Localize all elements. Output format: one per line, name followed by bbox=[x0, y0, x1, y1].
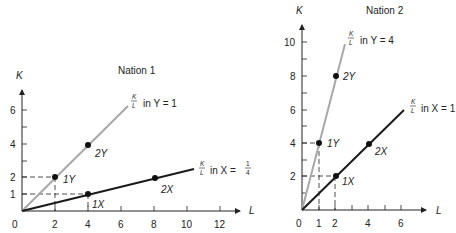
n2-ytick-4: 4 bbox=[290, 138, 296, 149]
nation-1-x-ticks bbox=[55, 206, 220, 211]
svg-text:K: K bbox=[349, 30, 354, 37]
nation-2-ray-x bbox=[302, 110, 404, 210]
n1-ray-y-label: K L in Y = 1 bbox=[131, 93, 177, 109]
n1-xtick-0: 0 bbox=[12, 219, 18, 230]
n1-label-1x: 1X bbox=[92, 199, 105, 210]
svg-text:K: K bbox=[200, 160, 205, 167]
svg-text:L: L bbox=[349, 39, 353, 46]
n2-ytick-10: 10 bbox=[284, 37, 296, 48]
n2-point-2y bbox=[333, 73, 339, 79]
n2-label-1y: 1Y bbox=[327, 138, 341, 149]
n2-point-2x bbox=[366, 141, 372, 147]
svg-text:1: 1 bbox=[246, 160, 250, 167]
n2-xtick-1: 1 bbox=[316, 218, 322, 229]
svg-text:L: L bbox=[132, 102, 136, 109]
n1-xtick-12: 12 bbox=[214, 219, 226, 230]
n2-ytick-6: 6 bbox=[290, 105, 296, 116]
svg-text:in X = 1: in X = 1 bbox=[421, 103, 456, 114]
n2-xtick-6: 6 bbox=[398, 218, 404, 229]
svg-text:4: 4 bbox=[246, 169, 250, 176]
n1-point-2x bbox=[152, 175, 158, 181]
n2-ray-y-label: K L in Y = 4 bbox=[348, 30, 394, 46]
svg-text:in X =: in X = bbox=[210, 165, 236, 176]
nation-1-y-axis-label: K bbox=[16, 70, 24, 81]
svg-text:L: L bbox=[411, 107, 415, 114]
n1-xtick-10: 10 bbox=[181, 219, 193, 230]
nation-1-title: Nation 1 bbox=[118, 65, 156, 76]
n1-ytick-2: 2 bbox=[10, 172, 16, 183]
n1-ytick-6: 6 bbox=[10, 105, 16, 116]
n1-label-2y: 2Y bbox=[94, 148, 109, 159]
n2-ytick-8: 8 bbox=[290, 71, 296, 82]
n1-xtick-8: 8 bbox=[151, 219, 157, 230]
n2-xtick-4: 4 bbox=[365, 218, 371, 229]
n2-point-1y bbox=[316, 140, 322, 146]
nation-2-dashed-guides bbox=[302, 143, 335, 210]
n1-point-1y bbox=[52, 174, 58, 180]
n1-point-2y bbox=[85, 142, 91, 148]
n2-label-2y: 2Y bbox=[342, 71, 357, 82]
nation-1-panel: Nation 1 K L 0 2 4 6 8 10 1 bbox=[10, 65, 255, 230]
n2-label-1x: 1X bbox=[342, 176, 355, 187]
n1-xtick-4: 4 bbox=[85, 219, 91, 230]
n2-ytick-2: 2 bbox=[290, 171, 296, 182]
n2-label-2x: 2X bbox=[374, 146, 388, 157]
nation-2-y-axis-label: K bbox=[296, 5, 304, 16]
n1-xtick-2: 2 bbox=[52, 219, 58, 230]
nation-2-ray-y bbox=[302, 44, 345, 210]
n2-xtick-0: 0 bbox=[296, 218, 302, 229]
nation-2-title: Nation 2 bbox=[366, 5, 404, 16]
nation-1-y-ticks bbox=[22, 110, 27, 194]
nation-1-ray-y bbox=[22, 106, 128, 211]
n1-label-2x: 2X bbox=[160, 184, 174, 195]
svg-text:L: L bbox=[200, 169, 204, 176]
n2-ray-x-label: K L in X = 1 bbox=[410, 98, 456, 114]
svg-text:in Y = 1: in Y = 1 bbox=[143, 98, 177, 109]
nation-2-y-ticks bbox=[302, 42, 307, 193]
nation-2-x-ticks bbox=[319, 205, 401, 210]
nation-1-x-axis-label: L bbox=[249, 205, 255, 216]
n2-point-1x bbox=[333, 173, 339, 179]
n1-xtick-6: 6 bbox=[118, 219, 124, 230]
svg-text:K: K bbox=[411, 98, 416, 105]
n1-label-1y: 1Y bbox=[63, 174, 77, 185]
n1-point-1x bbox=[85, 191, 91, 197]
svg-text:in Y = 4: in Y = 4 bbox=[360, 35, 394, 46]
nation-2-panel: Nation 2 K L 0 1 2 4 6 bbox=[284, 5, 456, 229]
chart-canvas: Nation 1 K L 0 2 4 6 8 10 1 bbox=[0, 0, 456, 233]
nation-1-dashed-guides bbox=[22, 177, 88, 211]
n1-ytick-4: 4 bbox=[10, 139, 16, 150]
n1-ray-x-label: K L in X = 1 4 bbox=[199, 160, 251, 176]
n1-ytick-1: 1 bbox=[10, 189, 16, 200]
nation-2-x-axis-label: L bbox=[436, 205, 442, 216]
n2-xtick-2: 2 bbox=[332, 218, 338, 229]
svg-text:K: K bbox=[132, 93, 137, 100]
